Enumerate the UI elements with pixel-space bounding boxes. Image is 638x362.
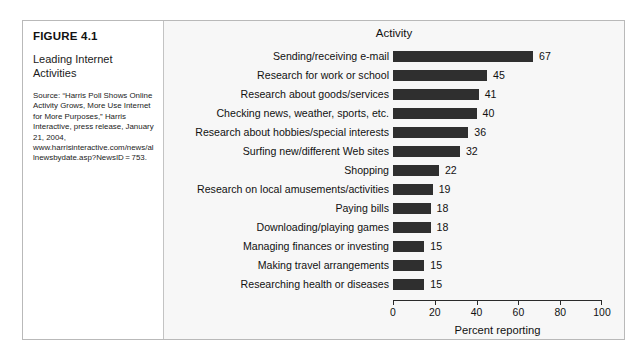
bar-category-label: Checking news, weather, sports, etc. [157, 106, 389, 120]
figure-subtitle: Leading Internet Activities [33, 52, 155, 80]
x-axis-tick-label: 60 [513, 307, 525, 318]
bar [393, 127, 468, 138]
figure-caption-panel: FIGURE 4.1 Leading Internet Activities S… [23, 21, 164, 339]
bar [393, 279, 424, 290]
bar-category-label: Sending/receiving e-mail [157, 49, 389, 63]
x-axis-title: Percent reporting [393, 324, 602, 336]
x-axis-tick-label: 0 [390, 307, 396, 318]
bar-track [393, 165, 602, 176]
figure-source-note: Source: “Harris Poll Shows Online Activi… [33, 91, 155, 164]
bar [393, 203, 431, 214]
bar-row: Shopping22 [164, 161, 624, 180]
bar-row: Making travel arrangements15 [164, 256, 624, 275]
bar-category-label: Making travel arrangements [157, 258, 389, 272]
bar-track [393, 279, 602, 290]
bar-row: Paying bills18 [164, 199, 624, 218]
bar [393, 165, 439, 176]
bar-category-label: Paying bills [157, 201, 389, 215]
bar-track [393, 127, 602, 138]
x-axis-tick [601, 300, 602, 305]
bar-chart-plot: Sending/receiving e-mail67Research for w… [164, 47, 624, 299]
bar-row: Research about goods/services41 [164, 85, 624, 104]
bar-value-label: 36 [474, 125, 486, 139]
bar-value-label: 15 [430, 277, 442, 291]
bar-category-label: Research about goods/services [157, 87, 389, 101]
bar-row: Research on local amusements/activities1… [164, 180, 624, 199]
bar-row: Researching health or diseases15 [164, 275, 624, 294]
bar-row: Research about hobbies/special interests… [164, 123, 624, 142]
bar-value-label: 22 [445, 163, 457, 177]
bar [393, 241, 424, 252]
bar-category-label: Downloading/playing games [157, 220, 389, 234]
x-axis-tick-label: 20 [429, 307, 441, 318]
bar-value-label: 40 [483, 106, 495, 120]
bar-category-label: Managing finances or investing [157, 239, 389, 253]
bar-category-label: Research on local amusements/activities [157, 182, 389, 196]
x-axis-tick [518, 300, 519, 305]
figure-number: FIGURE 4.1 [33, 30, 155, 42]
bar-track [393, 260, 602, 271]
bar [393, 146, 460, 157]
bar [393, 51, 533, 62]
figure-frame: FIGURE 4.1 Leading Internet Activities S… [22, 20, 625, 340]
bar-row: Surfing new/different Web sites32 [164, 142, 624, 161]
bar-track [393, 241, 602, 252]
x-axis-tick [393, 300, 394, 305]
bar-category-label: Research about hobbies/special interests [157, 125, 389, 139]
bar-row: Downloading/playing games18 [164, 218, 624, 237]
bar-value-label: 45 [493, 68, 505, 82]
bar-row: Research for work or school45 [164, 66, 624, 85]
bar-row: Sending/receiving e-mail67 [164, 47, 624, 66]
bar-value-label: 41 [485, 87, 497, 101]
bar [393, 260, 424, 271]
bar [393, 222, 431, 233]
bar-value-label: 18 [437, 201, 449, 215]
x-axis-tick-label: 100 [593, 307, 610, 318]
bar-track [393, 51, 602, 62]
bar-value-label: 67 [539, 49, 551, 63]
bar [393, 70, 487, 81]
bar-value-label: 32 [466, 144, 478, 158]
x-axis-tick [477, 300, 478, 305]
bar-row: Checking news, weather, sports, etc.40 [164, 104, 624, 123]
x-axis-tick-label: 40 [471, 307, 483, 318]
bar-track [393, 89, 602, 100]
bar-category-label: Researching health or diseases [157, 277, 389, 291]
bar-value-label: 15 [430, 239, 442, 253]
x-axis-tick [435, 300, 436, 305]
bar-category-label: Surfing new/different Web sites [157, 144, 389, 158]
bar [393, 184, 433, 195]
bar-row: Managing finances or investing15 [164, 237, 624, 256]
x-axis: 020406080100 [393, 300, 602, 301]
bar-value-label: 19 [439, 182, 451, 196]
x-axis-tick-label: 80 [554, 307, 566, 318]
bar-category-label: Research for work or school [157, 68, 389, 82]
bar-category-label: Shopping [157, 163, 389, 177]
bar-track [393, 203, 602, 214]
bar [393, 108, 477, 119]
bar-value-label: 15 [430, 258, 442, 272]
bar-track [393, 222, 602, 233]
chart-panel: Activity Sending/receiving e-mail67Resea… [164, 21, 624, 339]
bar-value-label: 18 [437, 220, 449, 234]
bar [393, 89, 479, 100]
x-axis-tick [560, 300, 561, 305]
bar-track [393, 108, 602, 119]
chart-title: Activity [164, 27, 624, 39]
bar-track [393, 146, 602, 157]
bar-track [393, 184, 602, 195]
